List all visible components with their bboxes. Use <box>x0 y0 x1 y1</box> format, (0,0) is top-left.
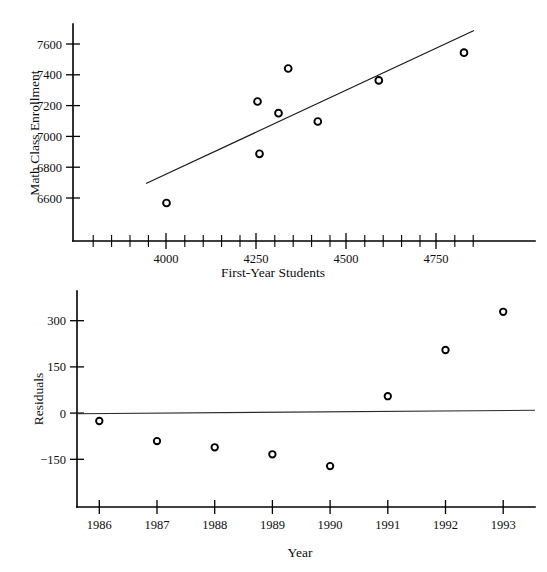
top-chart-x-axis-title: First-Year Students <box>221 265 325 280</box>
x-tick-label-4250: 4250 <box>244 252 269 266</box>
data-point <box>500 309 506 315</box>
residual-panel: 300 150 0 −150 1986 1987 1988 <box>31 291 535 560</box>
bottom-chart-x-tick-labels: 1986 1987 1988 1989 1990 1991 1992 1993 <box>87 518 516 532</box>
data-point <box>461 49 468 56</box>
top-chart-y-axis-title: Math Class Enrollment <box>27 70 42 195</box>
bottom-chart-x-axis-title: Year <box>288 545 313 560</box>
statistics-figure: 7600 7400 7200 7000 6800 6600 <box>0 0 547 572</box>
x-tick-label-4750: 4750 <box>424 252 449 266</box>
data-point <box>256 150 263 157</box>
figure-root: 7600 7400 7200 7000 6800 6600 <box>0 0 547 572</box>
data-point <box>327 463 333 469</box>
y-tick-label-minus150: −150 <box>40 453 66 467</box>
top-chart-x-tick-labels: 4000 4250 4500 4750 <box>154 252 449 266</box>
y-tick-label-7600: 7600 <box>37 38 62 52</box>
top-chart-data-points <box>163 49 467 206</box>
x-tick-label-1987: 1987 <box>145 518 170 532</box>
data-point <box>375 77 382 84</box>
x-tick-label-1993: 1993 <box>491 518 516 532</box>
x-tick-label-4500: 4500 <box>334 252 359 266</box>
data-point <box>275 110 282 117</box>
y-tick-label-150: 150 <box>47 360 66 374</box>
x-tick-label-4000: 4000 <box>154 252 179 266</box>
scatter-panel-enrollment: 7600 7400 7200 7000 6800 6600 <box>27 24 535 280</box>
data-point <box>96 418 102 424</box>
x-tick-label-1989: 1989 <box>260 518 285 532</box>
data-point <box>385 393 391 399</box>
data-point <box>314 118 321 125</box>
x-tick-label-1991: 1991 <box>375 518 400 532</box>
y-tick-label-300: 300 <box>47 314 66 328</box>
x-tick-label-1986: 1986 <box>87 518 112 532</box>
data-point <box>212 444 218 450</box>
zero-reference-line <box>77 410 535 413</box>
x-tick-label-1992: 1992 <box>433 518 458 532</box>
x-tick-label-1988: 1988 <box>202 518 227 532</box>
data-point <box>269 451 275 457</box>
data-point <box>285 65 292 72</box>
data-point <box>254 98 261 105</box>
x-tick-label-1990: 1990 <box>318 518 343 532</box>
regression-line <box>146 31 474 184</box>
data-point <box>442 347 448 353</box>
data-point <box>154 438 160 444</box>
y-tick-label-0: 0 <box>60 407 66 421</box>
bottom-chart-y-axis-title: Residuals <box>31 373 46 426</box>
bottom-chart-data-points <box>96 309 506 470</box>
data-point <box>163 200 170 207</box>
